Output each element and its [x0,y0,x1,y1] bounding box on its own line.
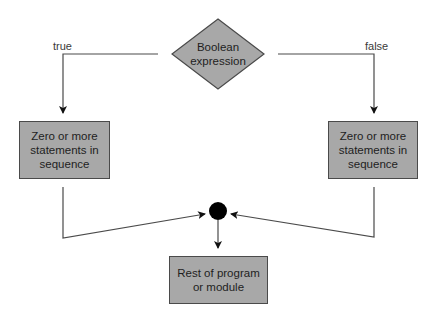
rest-line2: or module [193,280,244,294]
false-edge-label: false [365,40,388,52]
decision-label-line2: expression [190,54,246,68]
decision-label-line1: Boolean [197,40,239,54]
false-branch-line1: Zero or more [340,129,406,143]
true-edge-label: true [53,40,72,52]
false-branch-line2: statements in [339,143,407,157]
junction-dot [209,202,227,220]
true-branch-line1: Zero or more [31,129,97,143]
rest-line1: Rest of program [177,266,259,280]
true-merge-edge [63,187,205,238]
false-branch-line3: sequence [348,157,398,171]
decision-label: Boolean expression [178,38,258,70]
false-merge-edge [231,187,374,237]
false-branch-label: Zero or more statements in sequence [328,121,418,179]
rest-of-program-label: Rest of program or module [169,256,268,304]
true-branch-line2: statements in [30,143,98,157]
false-branch-edge [278,54,374,113]
true-branch-edge [63,54,158,113]
true-branch-label: Zero or more statements in sequence [19,121,110,179]
true-branch-line3: sequence [40,157,90,171]
